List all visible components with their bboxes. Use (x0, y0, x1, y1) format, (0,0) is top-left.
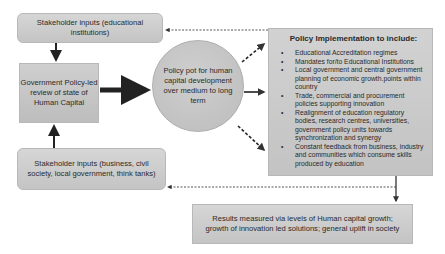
list-item: Constant feedback from business, industr… (281, 143, 426, 168)
list-item: Educational Accreditation regimes (281, 49, 426, 57)
policy-pot-label: Policy pot for human capital development… (163, 66, 233, 105)
policy-implementation-title: Policy Implementation to include: (281, 34, 426, 44)
arrow-pot-to-impl-lower (238, 126, 264, 150)
list-item: Trade, commercial and procurement polici… (281, 92, 426, 109)
results-label: Results measured via levels of Human cap… (201, 214, 404, 234)
stakeholder-inputs-business-label: Stakeholder inputs (business, civil soci… (24, 159, 159, 179)
stakeholder-inputs-educational-label: Stakeholder inputs (educational institut… (18, 18, 162, 38)
policy-implementation-list: Educational Accreditation regimes Mandat… (281, 49, 426, 168)
list-item: Realignment of education regulatory bodi… (281, 109, 426, 143)
list-item: Local government and central government … (281, 66, 426, 91)
arrow-pot-to-impl-upper (242, 44, 264, 62)
results-box: Results measured via levels of Human cap… (192, 204, 413, 244)
stakeholder-inputs-educational-box: Stakeholder inputs (educational institut… (17, 13, 163, 43)
policy-implementation-box: Policy Implementation to include: Educat… (268, 28, 433, 176)
stakeholder-inputs-business-box: Stakeholder inputs (business, civil soci… (17, 148, 166, 190)
list-item: Mandates for/to Educational Institutions (281, 58, 426, 66)
policy-pot-circle: Policy pot for human capital development… (152, 40, 244, 132)
government-review-label: Government Policy-led review of state of… (20, 78, 98, 108)
government-review-box: Government Policy-led review of state of… (19, 63, 99, 123)
